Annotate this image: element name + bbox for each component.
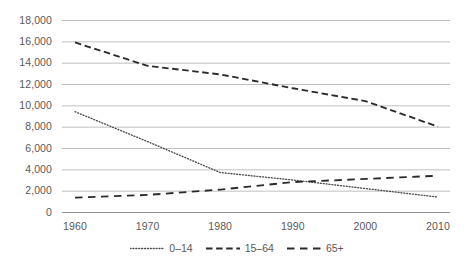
y-axis-tick-label: 0 (0, 207, 52, 218)
y-axis-tick-label: 14,000 (0, 57, 52, 68)
series-line-2 (75, 176, 438, 198)
line-chart: 18,00016,00014,00012,00010,0008,0006,000… (0, 0, 474, 268)
legend-swatch-line-icon (206, 243, 240, 253)
x-axis-tick-label: 1960 (45, 221, 105, 232)
x-axis-tick-label: 1990 (263, 221, 323, 232)
x-axis-tick-label: 2010 (408, 221, 468, 232)
legend-item[interactable]: 0–14 (130, 243, 192, 254)
legend-label: 15–64 (245, 243, 274, 254)
y-axis-tick-label: 16,000 (0, 36, 52, 47)
y-axis-tick-label: 18,000 (0, 15, 52, 26)
legend-label: 65+ (326, 243, 344, 254)
legend-swatch-line-icon (287, 243, 321, 253)
y-axis-tick-label: 2,000 (0, 185, 52, 196)
y-axis-tick-label: 6,000 (0, 143, 52, 154)
chart-legend: 0–1415–6465+ (0, 243, 474, 254)
y-axis-tick-label: 12,000 (0, 79, 52, 90)
legend-item[interactable]: 65+ (287, 243, 344, 254)
y-axis-tick-label: 8,000 (0, 121, 52, 132)
x-axis-tick-label: 1980 (190, 221, 250, 232)
gridlines (62, 21, 450, 213)
series-line-0 (75, 112, 438, 197)
x-axis-tick-label: 2000 (335, 221, 395, 232)
y-axis-tick-label: 4,000 (0, 164, 52, 175)
data-series-group (75, 42, 438, 197)
legend-swatch-line-icon (130, 243, 164, 253)
y-axis-tick-label: 10,000 (0, 100, 52, 111)
legend-item[interactable]: 15–64 (206, 243, 274, 254)
x-axis-tick-label: 1970 (118, 221, 178, 232)
legend-label: 0–14 (169, 243, 192, 254)
